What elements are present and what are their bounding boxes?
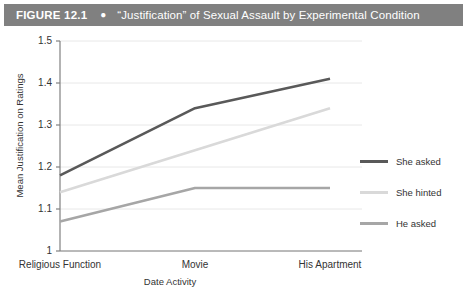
x-axis-tick-label: Movie [135,260,255,270]
y-axis-tick-label: 1 [18,246,52,256]
chart-area: Mean Justification on Ratings 11.11.21.3… [0,26,467,306]
x-axis-tick-label: His Apartment [270,260,390,270]
y-axis-tick-label: 1.5 [18,36,52,46]
legend-item[interactable]: She asked [360,155,465,167]
bullet-icon: ● [100,10,106,20]
figure-root: FIGURE 12.1 ● “Justification” of Sexual … [0,0,467,306]
legend-label: She asked [396,156,441,167]
figure-title: “Justification” of Sexual Assault by Exp… [117,9,420,21]
y-axis-tick-label: 1.3 [18,120,52,130]
y-axis-tick-label: 1.4 [18,78,52,88]
legend-label: He asked [396,218,436,229]
legend-item[interactable]: She hinted [360,186,465,198]
x-axis-tick-label: Religious Function [0,260,120,270]
figure-header-bar: FIGURE 12.1 ● “Justification” of Sexual … [4,4,463,26]
legend-label: She hinted [396,187,441,198]
y-axis-tick-label: 1.2 [18,162,52,172]
figure-number: FIGURE 12.1 [16,9,87,21]
y-axis-tick-label: 1.1 [18,204,52,214]
x-axis-title: Date Activity [0,276,340,287]
legend-color-swatch [360,160,388,163]
legend-item[interactable]: He asked [360,217,465,229]
legend-color-swatch [360,191,388,194]
chart-legend: She askedShe hintedHe asked [360,155,465,248]
legend-color-swatch [360,222,388,225]
